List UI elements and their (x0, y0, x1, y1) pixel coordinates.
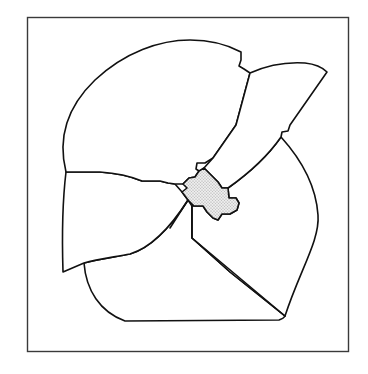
segment-diagram (0, 0, 368, 374)
